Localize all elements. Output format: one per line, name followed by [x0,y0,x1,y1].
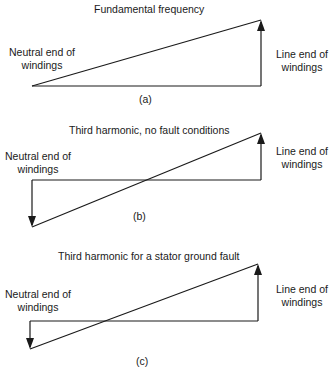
panel-b-line-label: Line end of windings [272,145,332,171]
label-line: Line end of [272,145,332,158]
label-line: Neutral end of [4,150,72,163]
label-line: windings [8,59,76,72]
panel-b-title: Third harmonic, no fault conditions [69,124,230,137]
panel-b-neutral-label: Neutral end of windings [4,150,72,176]
panel-c-caption: (c) [136,355,148,368]
panel-c-neutral-label: Neutral end of windings [4,288,72,314]
label-line: Line end of [272,283,332,296]
panel-a-line-label: Line end of windings [272,48,332,74]
label-line: windings [4,301,72,314]
panel-c-title: Third harmonic for a stator ground fault [58,250,240,263]
label-line: windings [272,158,332,171]
panel-a-title: Fundamental frequency [94,3,204,16]
panel-c-line-label: Line end of windings [272,283,332,309]
label-line: Neutral end of [8,46,76,59]
panel-a-neutral-label: Neutral end of windings [8,46,76,72]
panel-b-diagram [28,133,265,227]
panel-a-caption: (a) [139,93,152,106]
label-line: windings [272,61,332,74]
label-line: windings [4,163,72,176]
panel-b-caption: (b) [133,210,146,223]
label-line: Neutral end of [4,288,72,301]
label-line: windings [272,296,332,309]
label-line: Line end of [272,48,332,61]
